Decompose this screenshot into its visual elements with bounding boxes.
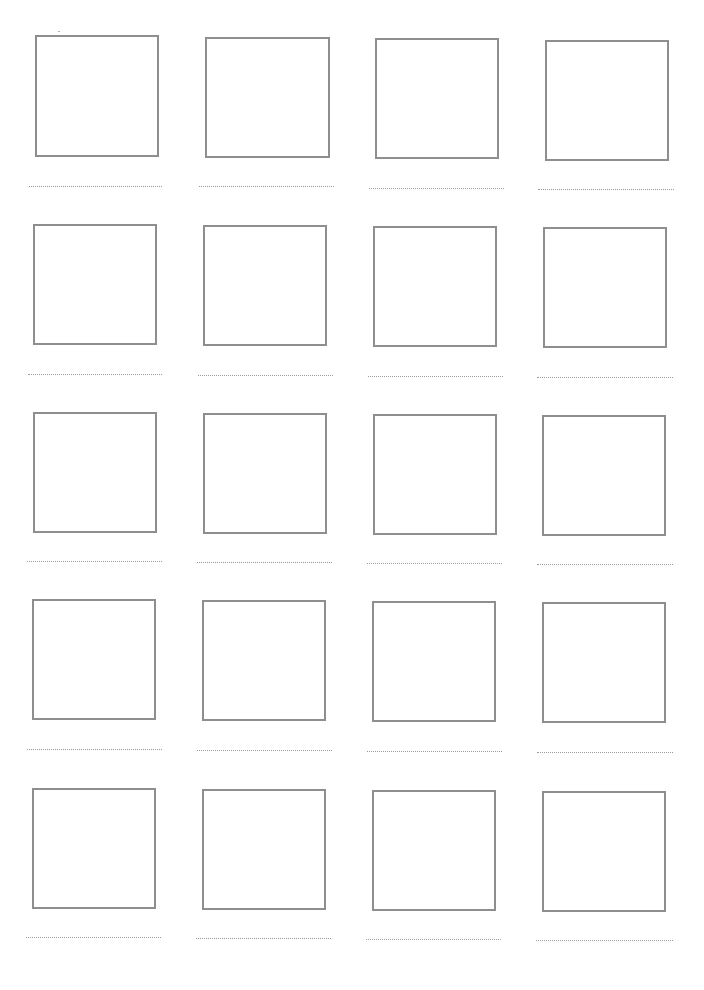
label-writing-line — [368, 376, 503, 377]
label-writing-line — [29, 186, 162, 187]
label-writing-line — [367, 751, 502, 752]
drawing-box — [373, 414, 497, 535]
drawing-box — [375, 38, 499, 159]
drawing-box — [203, 413, 327, 534]
drawing-box — [33, 412, 157, 533]
drawing-box — [542, 415, 666, 536]
label-writing-line — [538, 189, 674, 190]
drawing-box — [32, 788, 156, 909]
label-writing-line — [369, 188, 504, 189]
drawing-box — [205, 37, 330, 158]
label-writing-line — [197, 562, 332, 563]
drawing-box — [542, 602, 666, 723]
label-writing-line — [26, 937, 161, 938]
label-writing-line — [198, 375, 333, 376]
label-writing-line — [196, 938, 331, 939]
drawing-box — [35, 35, 159, 157]
drawing-box — [202, 600, 326, 721]
label-writing-line — [536, 940, 673, 941]
drawing-box — [202, 789, 326, 910]
drawing-box — [372, 601, 496, 722]
label-writing-line — [27, 749, 162, 750]
drawing-box — [33, 224, 157, 345]
label-writing-line — [367, 563, 502, 564]
label-writing-line — [28, 374, 162, 375]
drawing-box — [372, 790, 496, 911]
drawing-box — [542, 791, 666, 912]
label-writing-line — [537, 564, 673, 565]
label-writing-line — [537, 752, 673, 753]
label-writing-line — [366, 939, 501, 940]
label-writing-line — [197, 750, 332, 751]
worksheet-page — [0, 0, 704, 990]
drawing-box — [545, 40, 669, 161]
drawing-box — [373, 226, 497, 347]
label-writing-line — [27, 561, 162, 562]
scan-speck — [58, 31, 60, 32]
label-writing-line — [199, 186, 334, 187]
drawing-box — [32, 599, 156, 720]
drawing-box — [543, 227, 667, 348]
label-writing-line — [537, 377, 673, 378]
drawing-box — [203, 225, 327, 346]
